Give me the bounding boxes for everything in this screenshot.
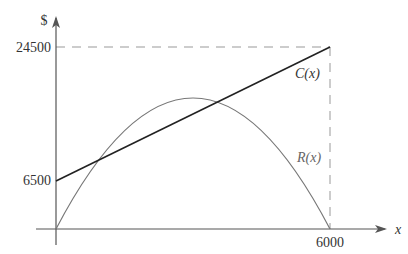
y-tick-24500: 24500 [16,40,51,55]
y-axis-label: $ [41,13,48,28]
chart-canvas: $ x 24500 6500 6000 C(x) R(x) [0,0,408,254]
cost-line [56,47,330,181]
cost-curve-label: C(x) [295,66,320,82]
x-tick-6000: 6000 [316,235,344,250]
revenue-curve-label: R(x) [296,150,321,166]
x-axis-label: x [394,222,402,237]
y-tick-6500: 6500 [23,173,51,188]
revenue-curve [56,98,330,229]
